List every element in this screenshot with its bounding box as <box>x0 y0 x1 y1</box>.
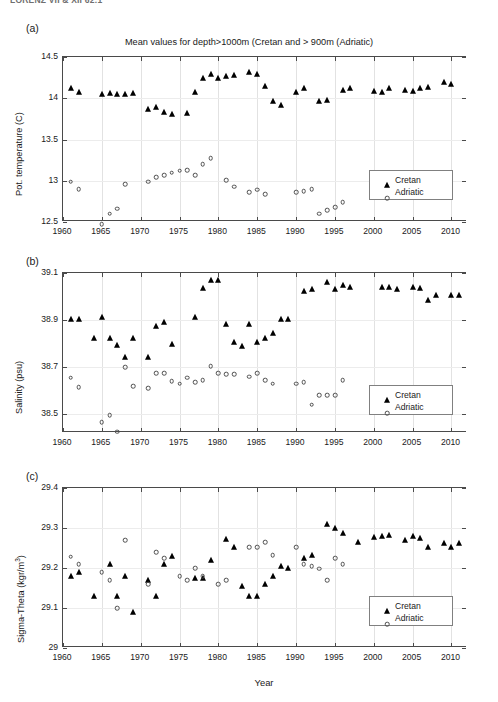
x-tick <box>257 643 258 647</box>
x-tick-top <box>141 57 142 61</box>
x-tick <box>374 643 375 647</box>
x-tick <box>102 428 103 432</box>
data-point-adriatic <box>263 540 268 545</box>
gridline-vertical <box>102 273 103 432</box>
y-tick <box>63 222 67 223</box>
x-tick-top <box>335 273 336 277</box>
x-tick-label: 1985 <box>247 652 266 662</box>
y-tick <box>63 608 67 609</box>
data-point-cretan <box>262 581 268 587</box>
data-point-cretan <box>114 341 120 347</box>
x-tick-label: 2000 <box>363 437 382 447</box>
y-tick-label: 38.5 <box>20 408 58 418</box>
data-point-cretan <box>192 575 198 581</box>
data-point-cretan <box>231 339 237 345</box>
data-point-cretan <box>239 583 245 589</box>
data-point-adriatic <box>76 187 81 192</box>
x-tick-top <box>335 488 336 492</box>
data-point-cretan <box>208 277 214 283</box>
gridline-vertical <box>257 273 258 432</box>
panel-b-plot-area: CretanAdriatic <box>62 272 466 432</box>
data-point-cretan <box>347 85 353 91</box>
x-tick <box>102 643 103 647</box>
x-tick-label: 1975 <box>169 226 188 236</box>
data-point-cretan <box>169 553 175 559</box>
data-point-cretan <box>301 85 307 91</box>
data-point-cretan <box>153 323 159 329</box>
x-tick <box>63 643 64 647</box>
x-tick-top <box>102 488 103 492</box>
data-point-cretan <box>417 535 423 541</box>
data-point-cretan <box>208 71 214 77</box>
x-tick-label: 1965 <box>91 437 110 447</box>
data-point-cretan <box>379 533 385 539</box>
data-point-cretan <box>262 83 268 89</box>
data-point-adriatic <box>146 582 151 587</box>
x-tick <box>141 428 142 432</box>
data-point-cretan <box>161 109 167 115</box>
panel-a-plot-area: CretanAdriatic <box>62 56 466 221</box>
data-point-adriatic <box>162 371 167 376</box>
data-point-cretan <box>107 90 113 96</box>
circle-icon <box>385 622 390 627</box>
legend-label: Adriatic <box>395 402 424 412</box>
data-point-adriatic <box>340 200 345 205</box>
data-point-cretan <box>169 111 175 117</box>
data-point-cretan <box>379 284 385 290</box>
panel-c-x-axis <box>63 646 466 647</box>
x-tick <box>218 643 219 647</box>
data-point-cretan <box>425 83 431 89</box>
x-tick-label: 1965 <box>91 226 110 236</box>
x-tick-label: 1960 <box>52 437 71 447</box>
legend: CretanAdriatic <box>369 170 453 200</box>
y-tick-label: 29.1 <box>20 602 58 612</box>
data-point-cretan <box>114 593 120 599</box>
y-tick-right <box>462 57 466 58</box>
y-tick-label: 29.2 <box>20 562 58 572</box>
data-point-cretan <box>161 561 167 567</box>
x-tick-label: 1970 <box>130 652 149 662</box>
legend-label: Adriatic <box>395 187 424 197</box>
x-tick <box>257 428 258 432</box>
data-point-adriatic <box>169 170 174 175</box>
x-tick-top <box>141 488 142 492</box>
data-point-adriatic <box>131 384 136 389</box>
x-axis-label: Year <box>255 677 274 688</box>
panel-c-tag: (c) <box>26 470 38 482</box>
legend-item-adriatic: Adriatic <box>382 402 424 412</box>
y-tick-right <box>462 528 466 529</box>
y-tick-right <box>462 488 466 489</box>
y-tick-label: 38.9 <box>20 314 58 324</box>
data-point-adriatic <box>185 168 190 173</box>
data-point-adriatic <box>325 393 330 398</box>
data-point-adriatic <box>68 375 73 380</box>
data-point-adriatic <box>169 379 174 384</box>
x-tick-label: 1965 <box>91 652 110 662</box>
x-tick-top <box>296 488 297 492</box>
legend-label: Cretan <box>395 390 421 400</box>
data-point-cretan <box>324 521 330 527</box>
x-tick <box>374 217 375 221</box>
y-tick-right <box>462 273 466 274</box>
data-point-cretan <box>324 279 330 285</box>
x-tick-label: 1980 <box>208 652 227 662</box>
data-point-adriatic <box>146 386 151 391</box>
x-tick-label: 1980 <box>208 437 227 447</box>
y-tick-label: 38.7 <box>20 361 58 371</box>
x-tick-top <box>257 57 258 61</box>
x-tick <box>413 428 414 432</box>
data-point-cretan <box>246 320 252 326</box>
data-point-cretan <box>192 313 198 319</box>
data-point-cretan <box>309 552 315 558</box>
y-tick-right <box>462 367 466 368</box>
x-tick-label: 1960 <box>52 652 71 662</box>
data-point-adriatic <box>247 545 252 550</box>
y-tick-label: 12.5 <box>20 216 58 226</box>
data-point-cretan <box>340 87 346 93</box>
y-tick <box>63 57 67 58</box>
x-tick-top <box>413 488 414 492</box>
data-point-adriatic <box>154 371 159 376</box>
gridline-horizontal <box>63 320 466 321</box>
y-tick-right <box>462 414 466 415</box>
y-tick-label: 13.5 <box>20 134 58 144</box>
